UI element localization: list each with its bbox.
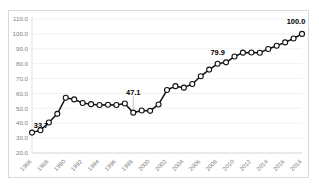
data-label: 100.0 (287, 17, 306, 26)
x-tick-label: 1986 (19, 158, 33, 172)
data-point (266, 46, 271, 51)
data-point (105, 102, 110, 107)
data-point (215, 61, 220, 66)
x-tick-label: 2016 (272, 158, 286, 172)
data-label: 33.7 (34, 121, 48, 130)
axis-lines (32, 17, 302, 153)
x-tick-label: 2004 (171, 158, 185, 172)
data-point (257, 50, 262, 55)
data-point (274, 43, 279, 48)
series-markers (30, 31, 305, 135)
data-point (249, 50, 254, 55)
data-point (224, 60, 229, 65)
y-tick-label: 20.0 (16, 149, 29, 156)
y-tick-label: 80.0 (16, 60, 29, 67)
data-point (122, 101, 127, 106)
x-tick-label: 2002 (154, 158, 168, 172)
data-point (80, 100, 85, 105)
data-point (291, 36, 296, 41)
data-label: 47.1 (126, 88, 140, 97)
data-point (55, 111, 60, 116)
data-point (63, 95, 68, 100)
gridlines (32, 19, 302, 153)
x-tick-label: 1998 (120, 158, 134, 172)
data-point (300, 31, 305, 36)
y-tick-label: 60.0 (16, 90, 29, 97)
data-point (190, 82, 195, 87)
data-point (240, 50, 245, 55)
data-point (283, 40, 288, 45)
data-point (173, 84, 178, 89)
x-tick-label: 2018 (289, 158, 303, 172)
data-point (232, 54, 237, 59)
x-tick-label: 1994 (87, 158, 101, 172)
x-tick-label: 2000 (137, 158, 151, 172)
x-tick-label: 2006 (188, 158, 202, 172)
y-tick-label: 30.0 (16, 134, 29, 141)
y-tick-label: 70.0 (16, 75, 29, 82)
y-tick-label: 90.0 (16, 45, 29, 52)
line-chart: 110.0100.090.080.070.060.050.040.030.020… (0, 0, 319, 190)
x-tick-label: 1988 (36, 158, 50, 172)
y-tick-label: 50.0 (16, 105, 29, 112)
x-tick-label: 2012 (238, 158, 252, 172)
x-tick-label: 2008 (205, 158, 219, 172)
data-point (207, 67, 212, 72)
data-point (131, 110, 136, 115)
x-tick-label: 1992 (70, 158, 84, 172)
data-label: 79.9 (210, 48, 224, 57)
data-point (114, 103, 119, 108)
y-tick-label: 40.0 (16, 119, 29, 126)
y-axis-ticks: 110.0100.090.080.070.060.050.040.030.020… (13, 15, 29, 156)
x-tick-label: 1990 (53, 158, 67, 172)
y-tick-label: 100.0 (13, 30, 29, 37)
data-point (89, 102, 94, 107)
x-axis-ticks: 1986198819901992199419961998200020022004… (19, 158, 303, 172)
data-point (97, 103, 102, 108)
data-point (139, 108, 144, 113)
data-point (181, 85, 186, 90)
x-tick-label: 2014 (255, 158, 269, 172)
data-point (165, 88, 170, 93)
data-point (156, 102, 161, 107)
data-point (148, 108, 153, 113)
y-tick-label: 110.0 (13, 15, 29, 22)
x-tick-label: 2010 (222, 158, 236, 172)
data-point (30, 130, 35, 135)
data-point (198, 74, 203, 79)
x-tick-label: 1996 (103, 158, 117, 172)
data-point (72, 97, 77, 102)
